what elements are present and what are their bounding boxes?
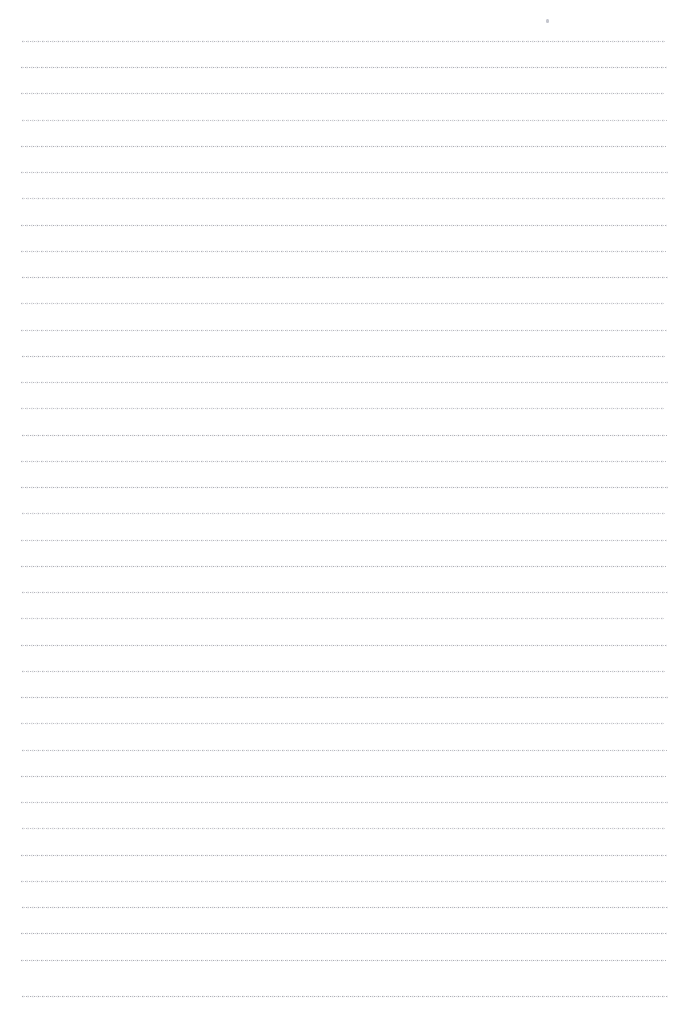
ruled-lines-layer: [0, 0, 683, 1014]
ruled-line-halo: [21, 224, 667, 227]
ruled-line: [22, 749, 667, 752]
ruled-line-ink: [22, 435, 667, 436]
ruled-line-ink: [22, 671, 666, 672]
ruled-line: [21, 722, 665, 725]
ruled-line-ink: [22, 356, 666, 357]
ruled-line-ink: [21, 540, 667, 541]
ruled-line: [22, 40, 666, 43]
ruled-line: [21, 250, 666, 253]
ruled-line-halo: [21, 171, 668, 174]
ruled-line-halo: [22, 591, 668, 594]
ruled-line: [21, 617, 665, 620]
ruled-line-ink: [22, 907, 668, 908]
ruled-line: [21, 854, 667, 857]
ruled-line-ink: [21, 330, 667, 331]
ruled-line-ink: [22, 120, 667, 121]
ruled-line-halo: [22, 434, 667, 437]
ruled-line-halo: [22, 995, 668, 998]
ruled-line-halo: [22, 119, 667, 122]
ruled-line-ink: [21, 146, 666, 147]
ruled-line-halo: [22, 355, 666, 358]
ruled-line-ink: [22, 513, 665, 514]
ruled-line-ink: [21, 303, 665, 304]
ruled-line: [22, 512, 665, 515]
ruled-line-halo: [21, 407, 665, 410]
ruled-line: [21, 644, 667, 647]
ruled-line: [22, 670, 666, 673]
ruled-line: [22, 995, 668, 998]
ruled-line: [21, 224, 667, 227]
ruled-line-halo: [21, 801, 668, 804]
ruled-line-ink: [21, 776, 666, 777]
ruled-line-halo: [21, 302, 665, 305]
ruled-line-halo: [21, 775, 666, 778]
ruled-line-ink: [21, 802, 668, 803]
scanned-page: Blank ruled notebook page, scanned: [0, 0, 683, 1014]
ruled-line-ink: [21, 618, 665, 619]
ruled-line-halo: [21, 486, 668, 489]
ruled-line-ink: [21, 566, 666, 567]
ruled-line-halo: [21, 880, 666, 883]
ruled-line: [22, 906, 668, 909]
ruled-line: [21, 565, 666, 568]
ruled-line: [21, 66, 667, 69]
scan-speck: [546, 19, 549, 23]
ruled-line-ink: [21, 172, 668, 173]
ruled-line-ink: [21, 855, 667, 856]
ruled-line-halo: [21, 381, 668, 384]
ruled-line-halo: [21, 92, 664, 95]
ruled-line-halo: [21, 959, 666, 962]
ruled-line-halo: [21, 250, 666, 253]
ruled-line: [21, 302, 665, 305]
ruled-line: [21, 932, 667, 935]
ruled-line: [21, 145, 666, 148]
ruled-line: [22, 355, 666, 358]
ruled-line-halo: [22, 197, 665, 200]
ruled-line-halo: [21, 460, 666, 463]
ruled-line: [22, 434, 667, 437]
ruled-line: [22, 119, 667, 122]
ruled-line: [22, 276, 668, 279]
ruled-line-ink: [21, 461, 666, 462]
ruled-line: [21, 880, 666, 883]
ruled-line-halo: [21, 565, 666, 568]
ruled-line-ink: [21, 67, 667, 68]
ruled-line-ink: [21, 408, 665, 409]
ruled-line-halo: [21, 932, 667, 935]
ruled-line-halo: [22, 40, 666, 43]
ruled-line-ink: [21, 251, 666, 252]
ruled-line-halo: [21, 644, 667, 647]
ruled-line-ink: [22, 828, 665, 829]
ruled-line-ink: [21, 881, 666, 882]
ruled-line-ink: [22, 996, 668, 997]
ruled-line-ink: [22, 592, 668, 593]
ruled-line-ink: [21, 697, 668, 698]
ruled-line-ink: [22, 41, 666, 42]
ruled-line-halo: [21, 854, 667, 857]
ruled-line-ink: [22, 277, 668, 278]
ruled-line-halo: [21, 539, 667, 542]
ruled-line: [21, 801, 668, 804]
ruled-line: [21, 486, 668, 489]
ruled-line: [22, 197, 665, 200]
ruled-line-ink: [21, 960, 666, 961]
ruled-line: [22, 827, 665, 830]
ruled-line-ink: [21, 487, 668, 488]
ruled-line-ink: [21, 723, 665, 724]
ruled-line: [22, 591, 668, 594]
ruled-line: [21, 407, 665, 410]
ruled-line-halo: [21, 722, 665, 725]
ruled-line-halo: [22, 749, 667, 752]
ruled-line: [21, 171, 668, 174]
ruled-line: [21, 539, 667, 542]
ruled-line-halo: [21, 696, 668, 699]
ruled-line-halo: [22, 512, 665, 515]
ruled-line-ink: [21, 225, 667, 226]
ruled-line: [21, 92, 664, 95]
ruled-line-ink: [22, 750, 667, 751]
ruled-line: [21, 696, 668, 699]
ruled-line-halo: [22, 906, 668, 909]
ruled-line-halo: [21, 66, 667, 69]
ruled-line-halo: [21, 329, 667, 332]
ruled-line-ink: [21, 645, 667, 646]
